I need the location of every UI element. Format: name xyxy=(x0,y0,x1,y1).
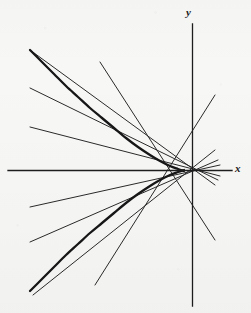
axes-group xyxy=(8,24,232,306)
pencil-of-lines xyxy=(30,50,220,295)
figure-canvas: y x xyxy=(0,0,251,313)
parabola-lower-branch xyxy=(30,170,184,291)
figure-svg xyxy=(0,0,251,313)
line-8 xyxy=(100,62,215,240)
y-axis-label: y xyxy=(186,7,191,18)
line-6 xyxy=(33,150,215,295)
line-7 xyxy=(95,95,215,285)
x-axis-label: x xyxy=(235,163,241,174)
parabola-upper-branch xyxy=(30,50,184,171)
